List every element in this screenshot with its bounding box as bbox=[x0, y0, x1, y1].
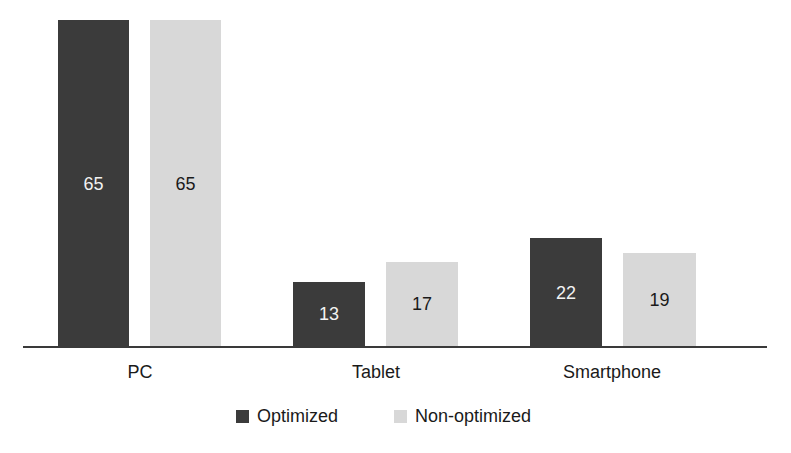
legend-label-nonoptimized: Non-optimized bbox=[415, 406, 531, 427]
legend-item-optimized: Optimized bbox=[236, 406, 338, 427]
bar-pc-optimized: 65 bbox=[58, 20, 129, 347]
bar-value-label: 22 bbox=[530, 283, 602, 304]
bar-chart: 65 65 13 17 22 19 PC Tablet Smartphone O… bbox=[0, 0, 791, 453]
bar-value-label: 19 bbox=[623, 290, 696, 311]
legend-swatch-light-icon bbox=[394, 410, 407, 423]
bar-pc-nonoptimized: 65 bbox=[150, 20, 221, 347]
bar-value-label: 65 bbox=[150, 174, 221, 195]
bar-smartphone-nonoptimized: 19 bbox=[623, 253, 696, 347]
bar-value-label: 65 bbox=[58, 174, 129, 195]
category-label-pc: PC bbox=[40, 362, 240, 383]
bar-tablet-nonoptimized: 17 bbox=[386, 262, 458, 347]
x-axis-baseline bbox=[23, 346, 767, 348]
bar-value-label: 17 bbox=[386, 294, 458, 315]
bar-smartphone-optimized: 22 bbox=[530, 238, 602, 347]
category-label-tablet: Tablet bbox=[276, 362, 476, 383]
category-label-smartphone: Smartphone bbox=[512, 362, 712, 383]
bar-tablet-optimized: 13 bbox=[293, 282, 365, 347]
bar-value-label: 13 bbox=[293, 304, 365, 325]
legend: Optimized Non-optimized bbox=[0, 406, 791, 430]
legend-swatch-dark-icon bbox=[236, 410, 249, 423]
legend-label-optimized: Optimized bbox=[257, 406, 338, 427]
legend-item-nonoptimized: Non-optimized bbox=[394, 406, 531, 427]
